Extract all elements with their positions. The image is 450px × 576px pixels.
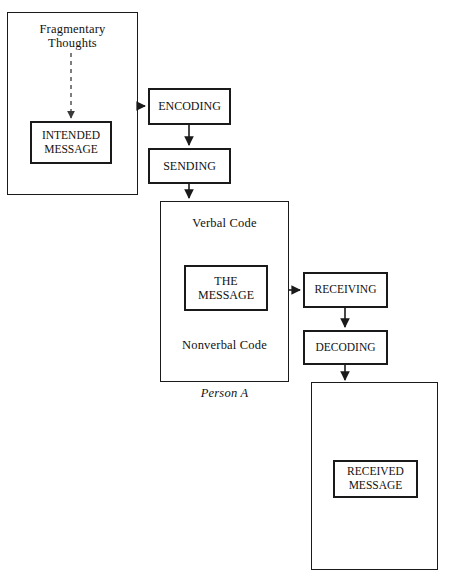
- communication-diagram: Fragmentary Thoughts INTENDED MESSAGE EN…: [0, 0, 450, 576]
- connector-arrows: [0, 0, 450, 576]
